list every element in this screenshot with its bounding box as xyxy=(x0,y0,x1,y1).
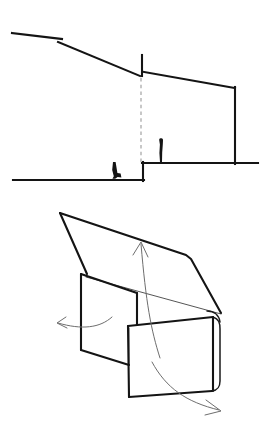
arrow-left-shaft xyxy=(58,317,112,327)
folded-roof-plane xyxy=(60,213,221,314)
arrow-up-head xyxy=(133,242,148,257)
standing-human-figure xyxy=(159,138,163,162)
arrow-down-right-icon xyxy=(152,362,221,415)
front-vertical-panel xyxy=(128,311,220,397)
lower-roof-slope-line xyxy=(58,42,140,76)
roof-plane-upper-edge xyxy=(60,213,221,313)
left-panel-bottom-edge xyxy=(81,350,129,365)
arrow-left-icon xyxy=(57,317,112,328)
arrow-down-right-shaft xyxy=(152,362,219,410)
drawing-sheet xyxy=(0,0,272,428)
front-panel-top-edge xyxy=(128,317,213,326)
folded-plane-axonometric xyxy=(0,195,272,428)
roof-plane-left-edge xyxy=(60,213,87,274)
arrow-left-head xyxy=(57,317,67,328)
right-roof-line xyxy=(144,72,235,88)
seated-human-figure xyxy=(112,162,121,179)
left-panel-top-edge xyxy=(81,274,137,293)
front-panel-bottom-edge xyxy=(129,391,212,397)
arrow-down-right-head xyxy=(205,400,221,415)
section-roof-lines xyxy=(12,33,235,164)
building-section xyxy=(0,0,272,195)
front-panel-left-edge xyxy=(128,326,129,397)
arrow-up-shaft xyxy=(141,244,160,358)
upper-roof-slope-line xyxy=(12,33,62,39)
section-ground-lines xyxy=(13,162,258,181)
